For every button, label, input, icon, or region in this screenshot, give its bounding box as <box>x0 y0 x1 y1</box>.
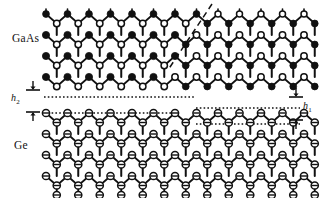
atom-open <box>118 62 124 68</box>
atom-open <box>301 53 307 59</box>
atom-open <box>75 41 81 47</box>
atom-open <box>172 74 178 80</box>
atom-filled <box>129 11 136 18</box>
atom-filled <box>193 11 200 18</box>
atom-filled <box>150 11 157 18</box>
atom-filled <box>64 73 71 80</box>
atom-filled <box>290 41 297 48</box>
atom-open <box>279 74 285 80</box>
step-height-label-h1: h1 <box>303 100 312 114</box>
atom-filled <box>107 52 114 59</box>
atom-filled <box>268 41 275 48</box>
step-height-label-h2: h2 <box>11 92 20 106</box>
atom-open <box>301 32 307 38</box>
atom-open <box>161 62 167 68</box>
atom-filled <box>311 20 318 27</box>
atom-open <box>54 62 60 68</box>
atom-open <box>236 53 242 59</box>
atom-open <box>161 41 167 47</box>
atom-filled <box>107 73 114 80</box>
atom-filled <box>64 11 71 18</box>
atom-open <box>193 32 199 38</box>
atom-open <box>97 41 103 47</box>
atom-open <box>75 62 81 68</box>
atom-filled <box>85 52 92 59</box>
atom-filled <box>43 11 50 18</box>
atom-filled <box>204 41 211 48</box>
atom-filled <box>247 62 254 69</box>
atom-open <box>258 11 264 17</box>
atom-filled <box>247 83 254 90</box>
atom-open <box>118 41 124 47</box>
atom-open <box>279 53 285 59</box>
atom-open <box>258 32 264 38</box>
atom-open <box>54 41 60 47</box>
atom-filled <box>128 52 135 59</box>
atom-open <box>183 20 189 26</box>
atom-open <box>301 74 307 80</box>
atom-open <box>118 83 124 89</box>
atom-filled <box>204 83 211 90</box>
atom-open <box>97 83 103 89</box>
atom-filled <box>42 52 49 59</box>
atom-filled <box>290 20 297 27</box>
atom-filled <box>172 11 179 18</box>
atom-open <box>215 53 221 59</box>
atom-filled <box>247 20 254 27</box>
atom-filled <box>150 73 157 80</box>
atom-filled <box>85 31 92 38</box>
atom-open <box>54 20 60 26</box>
atom-open <box>258 74 264 80</box>
atom-filled <box>268 83 275 90</box>
h1-subscript: 1 <box>308 106 312 114</box>
atom-filled <box>311 62 318 69</box>
atom-filled <box>128 73 135 80</box>
atom-open <box>215 32 221 38</box>
atom-filled <box>42 73 49 80</box>
atom-filled <box>182 83 189 90</box>
atom-open <box>193 53 199 59</box>
atom-filled <box>171 31 178 38</box>
atom-open <box>75 20 81 26</box>
atom-open <box>97 62 103 68</box>
atom-filled <box>85 73 92 80</box>
atom-filled <box>225 41 232 48</box>
atom-filled <box>311 41 318 48</box>
atom-filled <box>225 20 232 27</box>
atom-filled <box>107 31 114 38</box>
atom-filled <box>225 62 232 69</box>
atom-open <box>161 20 167 26</box>
atom-open <box>237 11 243 17</box>
atom-open <box>118 20 124 26</box>
atom-filled <box>268 62 275 69</box>
h2-subscript: 2 <box>16 98 20 106</box>
atom-filled <box>182 62 189 69</box>
atom-filled <box>150 52 157 59</box>
atom-open <box>140 62 146 68</box>
atom-open <box>258 53 264 59</box>
atom-filled <box>247 41 254 48</box>
atom-open <box>161 83 167 89</box>
atom-open <box>279 32 285 38</box>
atom-open <box>280 11 286 17</box>
atom-open <box>193 74 199 80</box>
figure-root: GaAs Ge h2 h1 <box>0 0 324 198</box>
atom-open <box>75 83 81 89</box>
atom-open <box>236 32 242 38</box>
atom-open <box>215 11 221 17</box>
atom-filled <box>225 83 232 90</box>
atom-filled <box>128 31 135 38</box>
atom-open <box>54 83 60 89</box>
lattice-diagram <box>0 0 324 198</box>
atom-filled <box>86 11 93 18</box>
material-label-ge: Ge <box>14 139 28 151</box>
atom-filled <box>64 52 71 59</box>
material-label-gaas: GaAs <box>12 32 39 44</box>
atom-open <box>236 74 242 80</box>
atom-open <box>140 83 146 89</box>
atom-filled <box>150 31 157 38</box>
atom-open <box>140 20 146 26</box>
atom-filled <box>107 11 114 18</box>
atom-filled <box>204 62 211 69</box>
atom-filled <box>204 20 211 27</box>
